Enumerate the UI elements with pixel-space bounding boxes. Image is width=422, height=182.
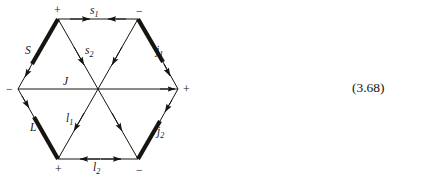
vertex-sign-top-right: − — [136, 5, 143, 17]
edge-upper-left-S — [18, 19, 58, 89]
vertex-sign-bottom-left: + — [55, 163, 62, 175]
vertex-sign-bottom-right: − — [136, 164, 143, 176]
edge-label-J: J — [63, 76, 68, 88]
figure-container: s1 s2 S J L l1 l2 j1 j2 + − − + + − (3.6… — [0, 0, 422, 182]
vertex-sign-left: − — [6, 83, 13, 95]
edge-lower-left-L — [18, 89, 58, 159]
equation-number: (3.68) — [352, 80, 385, 96]
edge-label-l1: l1 — [66, 113, 73, 127]
edge-label-j2: j2 — [157, 126, 164, 140]
edge-label-S: S — [25, 45, 31, 57]
edge-label-s1: s1 — [90, 5, 98, 19]
edge-label-L: L — [30, 122, 36, 134]
edge-label-j1: j1 — [156, 45, 163, 59]
vertex-sign-right: + — [183, 83, 190, 95]
edge-label-s2: s2 — [85, 45, 93, 59]
edge-lower-right-j2 — [138, 89, 178, 159]
edge-label-l2: l2 — [93, 162, 100, 176]
vertex-sign-top-left: + — [54, 4, 61, 16]
